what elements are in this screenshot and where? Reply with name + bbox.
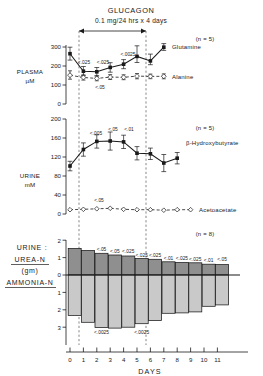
- urine-n-axis-label-2: UREA-N: [14, 256, 45, 263]
- bar-ammonia-7: [162, 275, 175, 313]
- urine-n-pvalue-top-5: <.025: [149, 253, 162, 258]
- xtick-11: 11: [214, 356, 221, 363]
- urine-n-pvalue-top-1: <.05: [97, 247, 107, 252]
- xtick-7: 7: [162, 356, 166, 363]
- bar-ammonia-9: [189, 275, 202, 312]
- panel-urine-ketones: URINE mM 200 160 120 80 40 0 (n = 5): [20, 115, 239, 217]
- bar-urea-8: [175, 263, 188, 276]
- xtick-8: 8: [176, 356, 180, 363]
- plasma-pvalue-3: <.0025: [120, 52, 135, 57]
- bar-ammonia-3: [108, 275, 121, 328]
- plasma-y-ticks: 300 200 100 0: [51, 43, 66, 107]
- figure-subtitle: 0.1 mg/24 hrs x 4 days: [95, 17, 168, 25]
- bar-urea-1: [82, 251, 95, 276]
- plasma-axis-label-2: µM: [25, 77, 34, 84]
- urine-n-pvalue-bottom-2: <.0025: [134, 330, 149, 335]
- bar-urea-5: [135, 259, 148, 276]
- urine-ketone-ytick-200: 200: [51, 115, 62, 122]
- figure-title: GLUCAGON: [108, 6, 155, 15]
- plasma-ytick-200: 200: [51, 62, 62, 69]
- urine-n-pvalue-top-8: <.025: [189, 257, 202, 262]
- bhb-markers: [68, 139, 179, 168]
- xtick-6: 6: [149, 356, 153, 363]
- bar-urea-0: [68, 249, 81, 276]
- urine-n-n-label: (n = 8): [196, 231, 215, 237]
- urine-n-y-ticks: 2 1 0 1 2 3: [58, 237, 66, 331]
- urine-n-pvalue-top-9: <.01: [204, 258, 214, 263]
- urine-ketone-pvalue-4: <.05: [94, 198, 104, 203]
- x-axis: 0 1 2 3 4 5 6 7 8 9 10 11 DAYS: [66, 348, 248, 376]
- bar-ammonia-11: [216, 275, 229, 305]
- bar-ammonia-8: [175, 275, 188, 313]
- bar-ammonia-10: [202, 275, 215, 306]
- bhb-series-label: β-Hydroxybutyrate: [186, 140, 239, 146]
- urine-ketone-pvalue-2: <.05: [108, 127, 118, 132]
- xtick-2: 2: [95, 356, 99, 363]
- xtick-4: 4: [122, 356, 126, 363]
- urine-ketone-y-ticks: 200 160 120 80 40 0: [51, 115, 66, 217]
- bar-urea-11: [216, 265, 229, 275]
- urine-n-ytick-dn1: 1: [58, 289, 62, 296]
- urine-n-ytick-0: 0: [58, 271, 62, 278]
- xtick-9: 9: [189, 356, 193, 363]
- urine-n-ytick-dn2: 2: [58, 306, 62, 313]
- xtick-5: 5: [135, 356, 139, 363]
- urine-n-pvalue-top-6: <.01: [164, 256, 174, 261]
- bar-ammonia-5: [135, 275, 148, 324]
- treatment-span-arrow: [79, 29, 146, 34]
- plasma-pvalue-1: <.025: [78, 60, 91, 65]
- bar-urea-10: [202, 264, 215, 275]
- urine-n-pvalue-bottom-1: <.0025: [94, 330, 109, 335]
- urine-n-axis-label-1: URINE :: [17, 244, 48, 251]
- urine-ketone-ytick-0: 0: [58, 210, 62, 217]
- plasma-ytick-100: 100: [51, 81, 62, 88]
- x-axis-ticks: [70, 348, 217, 353]
- plasma-pvalue-2: <.025: [97, 60, 110, 65]
- urine-n-pvalue-top-4: <.025: [136, 253, 149, 258]
- bar-ammonia-2: [95, 275, 108, 328]
- urine-ketone-ytick-40: 40: [54, 191, 61, 198]
- alanine-series-label: Alanine: [172, 74, 194, 80]
- bar-ammonia-1: [82, 275, 95, 322]
- panel-plasma: PLASMA µM 300 200 100 0 (n = 5): [17, 36, 214, 107]
- x-axis-label: DAYS: [138, 367, 161, 376]
- plasma-ytick-0: 0: [58, 100, 62, 107]
- urine-n-ytick-up2: 2: [58, 237, 62, 244]
- figure-root: GLUCAGON 0.1 mg/24 hrs x 4 days PLASMA µ…: [0, 0, 263, 376]
- bar-urea-2: [95, 253, 108, 275]
- bar-urea-4: [122, 256, 135, 275]
- urine-n-ytick-dn3: 3: [58, 324, 62, 331]
- urine-n-ytick-up1: 1: [58, 254, 62, 261]
- bar-urea-3: [108, 255, 121, 275]
- urine-ketone-ytick-120: 120: [51, 153, 62, 160]
- plasma-axis-label-1: PLASMA: [17, 68, 44, 75]
- plasma-ytick-300: 300: [51, 43, 62, 50]
- urine-ketone-pvalue-3: <.01: [124, 127, 134, 132]
- urine-n-pvalue-top-3: <.025: [122, 249, 135, 254]
- acetoacetate-series-label: Acetoacetate: [199, 207, 237, 213]
- urine-n-pvalue-top-7: <.025: [176, 256, 189, 261]
- plasma-pvalue-4: <.05: [95, 85, 105, 90]
- bar-ammonia-6: [149, 275, 162, 321]
- glutamine-series-label: Glutamine: [172, 44, 202, 50]
- urine-ketone-ytick-160: 160: [51, 134, 62, 141]
- x-axis-tick-labels: 0 1 2 3 4 5 6 7 8 9 10 11: [68, 356, 221, 363]
- multi-panel-figure: GLUCAGON 0.1 mg/24 hrs x 4 days PLASMA µ…: [0, 0, 263, 376]
- xtick-3: 3: [109, 356, 113, 363]
- urine-n-pvalue-top-2: <.05: [110, 249, 120, 254]
- urine-ketone-pvalue-1: <.005: [90, 131, 103, 136]
- plasma-n-label: (n = 5): [196, 36, 215, 42]
- ammonia-n-bars: [68, 275, 228, 328]
- panel-urine-nitrogen: URINE : UREA-N (gm) AMMONIA-N 2 1 0 1 2 …: [5, 231, 240, 345]
- xtick-1: 1: [82, 356, 86, 363]
- urine-ketone-axis-label-1: URINE: [20, 172, 40, 179]
- urine-n-pvalue-top-10: <.05: [217, 257, 227, 262]
- bar-ammonia-0: [68, 275, 81, 315]
- urine-ketone-n-label: (n = 5): [196, 125, 215, 131]
- urine-n-axis-label-4: AMMONIA-N: [6, 279, 53, 286]
- bar-urea-9: [189, 263, 202, 275]
- acetoacetate-line: [70, 208, 191, 210]
- bhb-error-bars: [68, 132, 180, 172]
- urine-ketone-ytick-80: 80: [54, 172, 61, 179]
- urine-ketone-axis-label-2: mM: [25, 181, 36, 188]
